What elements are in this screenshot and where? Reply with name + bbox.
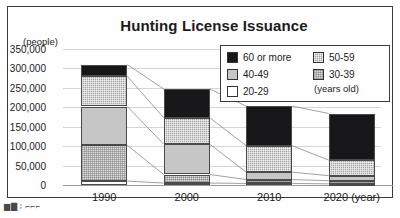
x-axis-tick-label: 2010 [257, 191, 281, 203]
legend-item: 40-49 [227, 66, 291, 82]
y-axis-tick-label: 150,000 [10, 121, 46, 132]
bar-segment-50-59 [81, 76, 127, 106]
chart-title: Hunting License Issuance [8, 17, 394, 34]
stacked-bar [164, 49, 210, 185]
bar-segment-60-or-more [246, 106, 292, 146]
y-axis-tick-label: 300,000 [10, 63, 46, 74]
y-axis-tick-label: 350,000 [10, 44, 46, 55]
y-axis-tick-label: 100,000 [10, 141, 46, 152]
connector-line [292, 146, 329, 160]
legend-label: 50-59 [329, 52, 355, 63]
y-axis-tick-label: 0 [40, 180, 46, 191]
legend-label: 40-49 [243, 69, 269, 80]
bar-segment-40-49 [329, 176, 375, 181]
connector-line [127, 107, 164, 145]
chart-legend: 60 or more40-4920-29 50-5930-39(years ol… [220, 45, 390, 102]
x-axis-tick-label: 2000 [175, 191, 199, 203]
bar-segment-50-59 [329, 160, 375, 176]
legend-swatch-50-59 [313, 52, 324, 63]
legend-item: 60 or more [227, 49, 291, 65]
legend-units-note: (years old) [314, 83, 359, 94]
legend-swatch-60-or-more [227, 52, 238, 63]
bar-segment-50-59 [164, 118, 210, 144]
chart-figure: Hunting License Issuance (people) 050,00… [0, 0, 400, 218]
bar-segment-50-59 [246, 146, 292, 172]
legend-swatch-20-29 [227, 86, 238, 97]
connector-line [210, 175, 247, 180]
legend-item: 20-29 [227, 83, 291, 99]
legend-item: 30-39 [313, 66, 359, 82]
bar-segment-20-29 [329, 184, 375, 186]
bar-segment-40-49 [164, 144, 210, 174]
legend-swatch-30-39 [313, 69, 324, 80]
legend-swatch-40-49 [227, 69, 238, 80]
connector-line [210, 144, 247, 172]
bar-segment-30-39 [81, 145, 127, 181]
bar-segment-30-39 [329, 181, 375, 184]
bottom-scan-artifact: ▆▇ ⁞ ⌐⌐⌐ [4, 202, 41, 211]
bar-segment-20-29 [81, 181, 127, 185]
bar-segment-60-or-more [329, 114, 375, 161]
legend-column-left: 60 or more40-4920-29 [227, 49, 291, 100]
legend-item: 50-59 [313, 49, 359, 65]
connector-line [127, 76, 164, 118]
bar-segment-20-29 [164, 183, 210, 185]
bar-segment-20-29 [246, 183, 292, 185]
legend-label: 60 or more [243, 52, 291, 63]
connector-line [292, 172, 329, 175]
stacked-bar [81, 49, 127, 185]
connector-line [210, 118, 247, 146]
bar-segment-30-39 [246, 180, 292, 184]
legend-label: 20-29 [243, 86, 269, 97]
x-axis-tick-label: 1990 [92, 191, 116, 203]
y-axis-tick-label: 200,000 [10, 102, 46, 113]
y-axis-tick-label: 250,000 [10, 82, 46, 93]
legend-column-right: 50-5930-39(years old) [313, 49, 359, 94]
legend-label: 30-39 [329, 69, 355, 80]
bar-segment-60-or-more [164, 89, 210, 118]
connector-line [292, 180, 329, 181]
bar-segment-40-49 [81, 107, 127, 146]
chart-frame: Hunting License Issuance (people) 050,00… [7, 6, 393, 198]
connector-line [127, 145, 164, 174]
x-axis-tick-label: 2020 (year) [324, 191, 380, 203]
y-axis-tick-label: 50,000 [15, 160, 46, 171]
bar-segment-40-49 [246, 172, 292, 179]
connector-line [127, 181, 164, 183]
bar-segment-60-or-more [81, 65, 127, 77]
bar-segment-30-39 [164, 175, 210, 184]
